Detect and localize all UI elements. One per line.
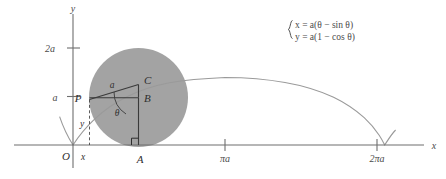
equation-line-2: y = a(1 − cos θ) <box>295 32 355 43</box>
point-label-o: O <box>62 150 70 162</box>
point-label-p: P <box>74 92 82 104</box>
x-axis-label: x <box>431 140 437 151</box>
x-tick-label-2pi-a: 2πa <box>369 153 384 164</box>
x-tick-label-pi-a: πa <box>220 153 230 164</box>
point-label-b: B <box>144 92 151 104</box>
height-label-y: y <box>79 119 85 129</box>
y-axis-label: y <box>70 3 76 14</box>
cycloid-figure: 2a a πa 2πa x y O P A B C a θ y x x = a(… <box>0 0 446 179</box>
abscissa-label-x: x <box>80 152 86 162</box>
equation-line-1: x = a(θ − sin θ) <box>295 20 353 31</box>
angle-label-theta: θ <box>115 108 120 118</box>
point-label-a: A <box>136 153 144 165</box>
y-tick-label-a: a <box>53 92 58 103</box>
y-tick-label-2a: 2a <box>45 43 55 54</box>
point-label-c: C <box>144 74 152 86</box>
radius-label-a: a <box>110 80 115 90</box>
cycloid-svg: 2a a πa 2πa x y O P A B C a θ y x x = a(… <box>0 0 446 179</box>
equation-brace <box>288 21 292 39</box>
